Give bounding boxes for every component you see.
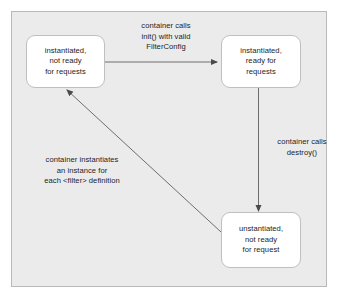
- state-diagram: instantiated, not ready for requests ins…: [0, 0, 349, 301]
- state-label-line: not ready: [49, 56, 81, 67]
- state-label-line: requests: [246, 67, 276, 78]
- transition-label-line: container calls: [118, 21, 214, 32]
- transition-label-line: an instance for: [21, 166, 143, 177]
- transition-label-init: container calls init() with valid Filter…: [118, 21, 214, 53]
- state-instantiated-not-ready: instantiated, not ready for requests: [26, 35, 105, 88]
- transition-label-line: each <filter> definition: [21, 176, 143, 187]
- state-unstantiated: unstantiated, not ready for request: [221, 212, 301, 268]
- state-label-line: instantiated,: [240, 46, 282, 57]
- state-label-line: for requests: [45, 67, 86, 78]
- transition-label-instantiates: container instantiates an instance for e…: [21, 155, 143, 187]
- transition-label-line: container instantiates: [21, 155, 143, 166]
- state-label-line: not ready: [245, 235, 277, 246]
- state-label-line: ready for: [246, 56, 276, 67]
- state-label-line: for request: [243, 245, 280, 256]
- state-instantiated-ready: instantiated, ready for requests: [221, 35, 301, 88]
- transition-label-destroy: container calls destroy(): [262, 137, 342, 158]
- transition-label-line: container calls: [262, 137, 342, 148]
- state-label-line: unstantiated,: [239, 224, 283, 235]
- transition-label-line: FilterConfig: [118, 42, 214, 53]
- transition-label-line: destroy(): [262, 148, 342, 159]
- state-label-line: instantiated,: [45, 46, 87, 57]
- transition-label-line: init() with valid: [118, 32, 214, 43]
